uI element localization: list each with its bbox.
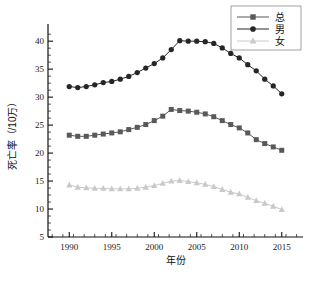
y-tick-label: 40 xyxy=(35,36,45,46)
data-point xyxy=(160,114,165,119)
data-point xyxy=(92,82,97,87)
data-point xyxy=(254,137,259,142)
data-point xyxy=(250,14,255,19)
data-point xyxy=(135,125,140,130)
data-point xyxy=(262,77,267,82)
data-point xyxy=(245,62,250,67)
data-point xyxy=(109,130,114,135)
data-point xyxy=(152,61,157,66)
data-point xyxy=(211,41,216,46)
data-point xyxy=(101,80,106,85)
data-point xyxy=(220,118,225,123)
data-point xyxy=(177,177,183,183)
data-point xyxy=(143,65,148,70)
data-point xyxy=(211,114,216,119)
data-point xyxy=(109,79,114,84)
legend-label: 女 xyxy=(275,35,285,47)
legend-label: 男 xyxy=(275,24,285,35)
data-point xyxy=(279,91,284,96)
data-point xyxy=(169,107,174,112)
data-point xyxy=(194,110,199,115)
y-tick-label: 25 xyxy=(35,120,45,130)
data-point xyxy=(118,129,123,134)
x-tick-label: 1990 xyxy=(60,242,79,252)
data-point xyxy=(84,134,89,139)
data-point xyxy=(279,148,284,153)
data-point xyxy=(250,26,256,32)
data-point xyxy=(152,118,157,123)
data-point xyxy=(101,132,106,137)
series-女 xyxy=(66,177,285,212)
data-point xyxy=(203,39,208,44)
data-point xyxy=(126,74,131,79)
data-point xyxy=(143,122,148,127)
data-point xyxy=(228,122,233,127)
data-point xyxy=(194,39,199,44)
data-point xyxy=(271,144,276,149)
x-tick-label: 2000 xyxy=(145,242,164,252)
chart-container: 510152025303540199019952000200520102015年… xyxy=(0,0,318,281)
data-point xyxy=(126,127,131,132)
data-point xyxy=(84,84,89,89)
data-point xyxy=(160,55,165,60)
data-point xyxy=(67,84,72,89)
series-总 xyxy=(67,107,285,153)
data-point xyxy=(245,130,250,135)
data-point xyxy=(66,182,72,188)
legend-box xyxy=(231,6,301,50)
data-point xyxy=(135,70,140,75)
data-point xyxy=(75,85,80,90)
data-point xyxy=(169,47,174,52)
chart-legend[interactable]: 总男女 xyxy=(231,6,301,50)
series-line xyxy=(69,109,282,150)
line-chart: 510152025303540199019952000200520102015年… xyxy=(0,0,318,281)
data-point xyxy=(254,68,259,73)
data-point xyxy=(67,133,72,138)
y-tick-label: 35 xyxy=(35,64,45,74)
y-tick-label: 10 xyxy=(35,204,45,214)
data-point xyxy=(220,45,225,50)
series-line xyxy=(69,180,282,209)
y-tick-label: 20 xyxy=(35,148,45,158)
data-point xyxy=(177,38,182,43)
x-tick-label: 2005 xyxy=(188,242,207,252)
data-point xyxy=(203,111,208,116)
data-point xyxy=(75,134,80,139)
x-tick-label: 1995 xyxy=(103,242,122,252)
data-point xyxy=(177,108,182,113)
data-point xyxy=(271,83,276,88)
data-point xyxy=(228,51,233,56)
x-tick-label: 2015 xyxy=(273,242,292,252)
data-point xyxy=(186,39,191,44)
data-point xyxy=(262,141,267,146)
y-tick-label: 5 xyxy=(40,232,45,242)
y-tick-label: 15 xyxy=(35,176,45,186)
y-tick-label: 30 xyxy=(35,92,45,102)
legend-label: 总 xyxy=(275,11,285,23)
x-tick-label: 2010 xyxy=(230,242,249,252)
data-point xyxy=(92,133,97,138)
data-point xyxy=(186,109,191,114)
data-point xyxy=(237,55,242,60)
data-point xyxy=(237,125,242,130)
y-axis-title: 死亡率（/10万） xyxy=(6,97,18,171)
data-point xyxy=(118,77,123,82)
x-axis-title: 年份 xyxy=(166,254,186,266)
